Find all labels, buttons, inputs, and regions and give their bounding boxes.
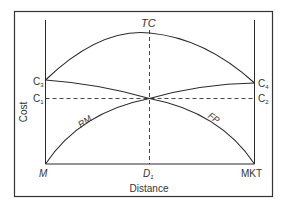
m-label: M bbox=[39, 168, 48, 179]
d1-label: D1 bbox=[143, 168, 154, 180]
tc-curve bbox=[46, 33, 255, 83]
fp-label: FP bbox=[206, 110, 221, 125]
rm-label: RM bbox=[76, 113, 94, 130]
c1-label: C1 bbox=[33, 93, 44, 105]
c2-label: C2 bbox=[258, 93, 269, 105]
mkt-label: MKT bbox=[241, 168, 262, 179]
fp-curve-left bbox=[46, 80, 150, 99]
x-axis-label: Distance bbox=[130, 183, 169, 194]
rm-curve-right bbox=[150, 83, 255, 99]
location-cost-diagram: TC RM FP C3 C1 C4 C2 Cost M D1 MKT Dista… bbox=[0, 0, 299, 212]
y-axis-label: Cost bbox=[18, 101, 29, 122]
c3-label: C3 bbox=[33, 76, 44, 88]
fp-curve bbox=[150, 99, 255, 165]
c4-label: C4 bbox=[258, 78, 269, 90]
rm-curve bbox=[46, 99, 150, 165]
tc-label: TC bbox=[141, 17, 156, 29]
